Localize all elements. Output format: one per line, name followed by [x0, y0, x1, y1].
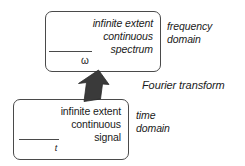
- frequency-axis-line: [49, 51, 92, 52]
- time-box-line-3: signal: [61, 131, 121, 144]
- frequency-domain-label-line-2: domain: [167, 33, 212, 46]
- time-box-line-1: infinite extent: [61, 105, 121, 118]
- frequency-domain-box: infinite extent continuous spectrum ω: [45, 11, 161, 72]
- fourier-transform-label-text: Fourier transform: [142, 79, 225, 92]
- diagram-canvas: infinite extent continuous spectrum ω in…: [0, 0, 245, 166]
- fourier-transform-label: Fourier transform: [142, 79, 225, 92]
- time-domain-label-line-1: time: [136, 109, 170, 122]
- frequency-axis-variable: ω: [77, 56, 93, 66]
- frequency-domain-label-line-1: frequency: [167, 20, 212, 33]
- time-domain-box: infinite extent continuous signal t: [13, 99, 129, 160]
- time-box-text: infinite extent continuous signal: [61, 105, 121, 143]
- time-domain-label-line-2: domain: [136, 122, 170, 135]
- frequency-box-line-1: infinite extent: [93, 17, 153, 30]
- time-box-line-2: continuous: [61, 118, 121, 131]
- frequency-box-text: infinite extent continuous spectrum: [93, 17, 153, 55]
- frequency-domain-label: frequency domain: [167, 20, 212, 46]
- upward-transform-arrow: [60, 68, 110, 102]
- time-axis-variable: t: [49, 144, 63, 153]
- frequency-box-line-3: spectrum: [93, 43, 153, 56]
- time-axis-line: [19, 139, 59, 140]
- frequency-box-line-2: continuous: [93, 30, 153, 43]
- arrow-icon: [60, 68, 110, 102]
- time-domain-label: time domain: [136, 109, 170, 135]
